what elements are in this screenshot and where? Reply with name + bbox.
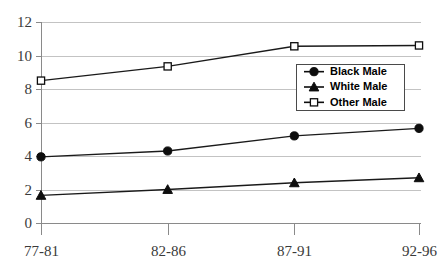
x-tick-label: 82-86 [151,243,186,259]
y-tick-label: 4 [25,148,33,164]
x-axis-ticks [42,223,420,235]
chart-legend: Black MaleWhite MaleOther Male [297,65,405,111]
x-tick-label: 77-81 [24,243,59,259]
series-line [41,178,419,196]
chart-axes [41,22,421,233]
line-chart: 024681012 77-8182-8687-9192-96 Black Mal… [0,0,443,274]
data-point-marker [415,42,422,49]
legend-label: Other Male [330,96,387,108]
y-tick-label: 8 [25,81,33,97]
legend-marker [310,68,318,76]
y-tick-label: 10 [17,48,32,64]
x-axis-tick-labels: 77-8182-8687-9192-96 [24,243,437,259]
data-point-marker [291,43,298,50]
legend-label: Black Male [330,65,387,77]
legend-label: White Male [330,80,387,92]
y-tick-label: 2 [25,182,33,198]
series-black-male [37,124,423,161]
chart-canvas: 024681012 77-8182-8687-9192-96 Black Mal… [0,0,443,274]
series-line [41,128,419,156]
data-point-marker [290,132,298,140]
x-tick-label: 87-91 [277,243,312,259]
x-tick-label: 92-96 [402,243,437,259]
data-point-marker [164,147,172,155]
data-point-marker [37,77,44,84]
data-point-marker [37,153,45,161]
data-point-marker [164,63,171,70]
data-point-marker [415,124,423,132]
legend-marker [310,99,317,106]
y-tick-label: 0 [25,215,33,231]
y-tick-label: 6 [25,115,33,131]
y-tick-label: 12 [17,14,32,30]
series-white-male [36,173,424,199]
